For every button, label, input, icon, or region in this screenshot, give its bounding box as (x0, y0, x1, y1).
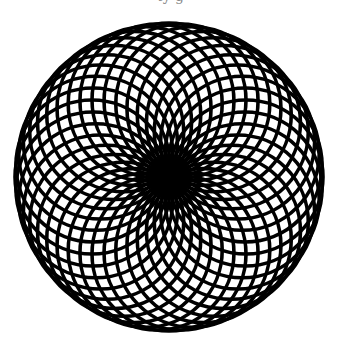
partial-caption: ty g (0, 0, 341, 4)
figure: ty g (0, 0, 341, 352)
circle-rosette-pattern (0, 0, 341, 352)
